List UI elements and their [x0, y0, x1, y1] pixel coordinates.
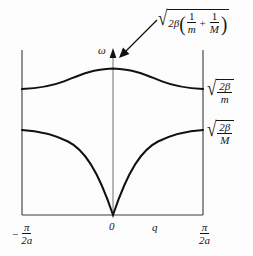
peak-paren-open: (	[179, 12, 185, 34]
figure-root: ω √ 2β ( 1 m + 1 M ) √	[0, 0, 253, 256]
x-axis-label: q	[152, 222, 158, 233]
peak-coefficient: 2β	[168, 18, 179, 29]
x-tick-right-denominator: 2a	[197, 234, 212, 246]
peak-plus-sign: +	[198, 18, 208, 29]
x-tick-right-numerator: π	[200, 222, 210, 234]
x-tick-right-fraction: π 2a	[197, 222, 212, 246]
acoustic-edge-annotation: √ 2β M	[207, 120, 234, 146]
radical-sign-optical-edge: √	[207, 77, 216, 110]
acoustic-edge-fraction: 2β M	[217, 122, 232, 146]
optical-edge-annotation: √ 2β m	[207, 79, 234, 105]
omega-axis-arrowhead	[110, 48, 117, 58]
optical-peak-annotation: √ 2β ( 1 m + 1 M )	[158, 9, 229, 35]
sqrt-symbol-optical-edge: √ 2β m	[207, 79, 234, 105]
peak-term-one-numerator: 1	[187, 11, 197, 23]
x-tick-left: − π 2a	[12, 222, 34, 246]
sqrt-symbol-peak: √ 2β ( 1 m + 1 M )	[158, 9, 229, 35]
peak-term-one: 1 m	[186, 11, 198, 35]
peak-term-one-denominator: m	[186, 23, 198, 35]
radicand-acoustic-edge: 2β M	[216, 120, 234, 146]
radicand-peak: 2β ( 1 m + 1 M )	[167, 9, 229, 35]
optical-edge-denominator: m	[219, 93, 231, 105]
optical-peak-pointer-line	[124, 20, 157, 53]
radical-sign-acoustic-edge: √	[207, 118, 216, 151]
radical-sign-peak: √	[158, 7, 167, 40]
acoustic-edge-denominator: M	[218, 134, 231, 146]
x-tick-left-sign: −	[12, 229, 19, 240]
x-tick-left-numerator: π	[22, 222, 32, 234]
x-tick-right: π 2a	[196, 222, 212, 246]
peak-term-two: 1 M	[208, 11, 221, 35]
peak-paren-close: )	[221, 12, 227, 34]
optical-edge-fraction: 2β m	[217, 81, 232, 105]
peak-term-two-numerator: 1	[210, 11, 220, 23]
x-tick-left-fraction: π 2a	[19, 222, 34, 246]
acoustic-edge-numerator: 2β	[217, 122, 232, 134]
optical-edge-numerator: 2β	[217, 81, 232, 93]
omega-axis-label: ω	[98, 45, 106, 56]
x-tick-left-denominator: 2a	[19, 234, 34, 246]
radicand-optical-edge: 2β m	[216, 79, 234, 105]
peak-term-two-denominator: M	[208, 23, 221, 35]
x-tick-origin: 0	[109, 221, 115, 232]
sqrt-symbol-acoustic-edge: √ 2β M	[207, 120, 234, 146]
